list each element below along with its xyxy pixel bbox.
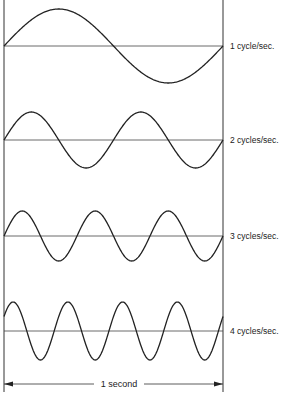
wave-label-3: 3 cycles/sec. — [230, 231, 279, 241]
wave-axes — [4, 46, 223, 331]
wave-label-4: 4 cycles/sec. — [230, 326, 279, 336]
arrow-left-icon — [4, 382, 13, 387]
wave-label-1: 1 cycle/sec. — [230, 41, 274, 51]
waveform-diagram — [0, 0, 284, 396]
sine-waves — [4, 9, 223, 360]
arrow-right-icon — [214, 382, 223, 387]
wave-label-2: 2 cycles/sec. — [230, 135, 279, 145]
duration-label: 1 second — [94, 378, 144, 390]
